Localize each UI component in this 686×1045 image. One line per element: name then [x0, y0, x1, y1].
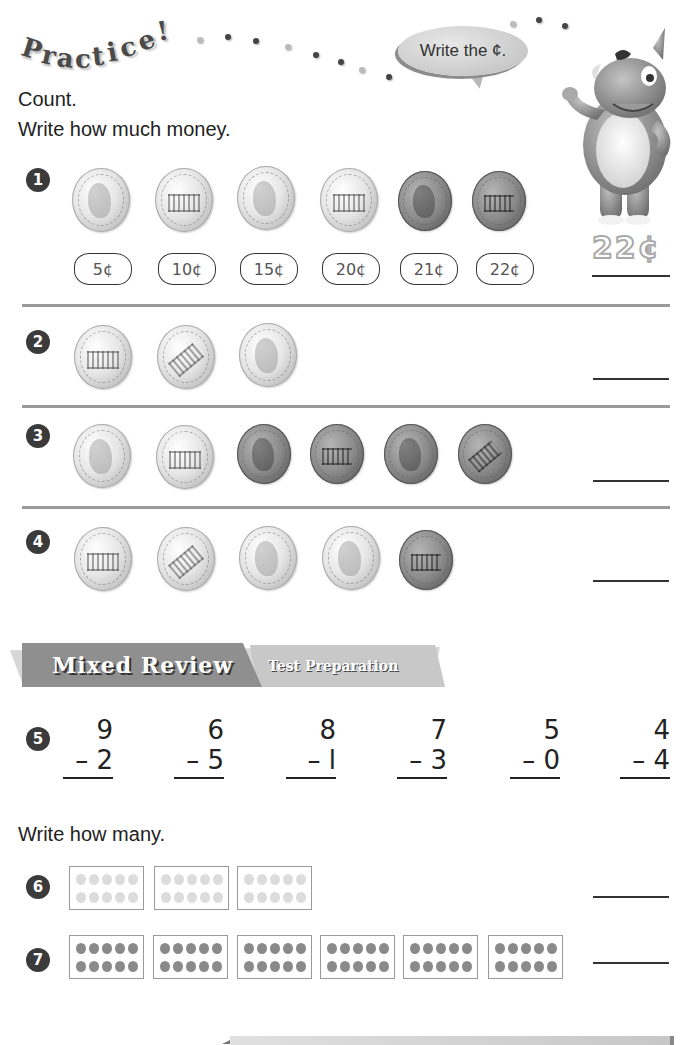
- ten-frame: [153, 935, 228, 979]
- trail-dot: [197, 37, 203, 43]
- section-divider: [22, 405, 670, 408]
- answer-blank[interactable]: [593, 480, 669, 482]
- answer-blank[interactable]: [593, 896, 669, 898]
- nickel-heads-icon: [73, 424, 131, 488]
- ten-frame: [403, 935, 478, 979]
- minuend: 4: [620, 715, 670, 745]
- ten-frame: [69, 935, 144, 979]
- mixed-review-banner: Test Preparation Mixed Review: [10, 643, 450, 687]
- exercise-number: 1: [26, 168, 50, 192]
- title-letter: t: [91, 41, 106, 72]
- bottom-page-bar: [230, 1036, 674, 1045]
- nickel-tails-icon: [157, 527, 215, 591]
- answer-blank[interactable]: [593, 962, 669, 964]
- subtraction-problem: 9 – 2: [63, 715, 113, 779]
- penny-heads-icon: [237, 424, 291, 484]
- section-divider: [22, 304, 670, 307]
- subtraction-problem: 5 – 0: [510, 715, 560, 779]
- ten-frame: [154, 866, 229, 910]
- mixed-review-label: Mixed Review: [22, 643, 262, 687]
- exercise-number: 2: [26, 330, 50, 354]
- minuend: 5: [510, 715, 560, 745]
- penny-tails-icon: [310, 424, 364, 484]
- trail-dot: [225, 34, 231, 40]
- practice-title: P r a c t i c e !: [22, 22, 242, 72]
- ten-frame: [69, 866, 144, 910]
- trail-dot: [285, 44, 291, 50]
- section-divider: [22, 506, 670, 509]
- trail-dot: [536, 17, 542, 23]
- nickel-tails-icon: [157, 325, 215, 389]
- ten-frame: [320, 935, 395, 979]
- trail-dot: [386, 74, 392, 80]
- title-letter: !: [155, 15, 170, 46]
- subtrahend: – 4: [620, 745, 670, 779]
- nickel-heads-icon: [239, 323, 297, 387]
- speech-bubble: Write the ¢.: [398, 26, 528, 76]
- trail-dot: [313, 52, 319, 58]
- nickel-heads-icon: [239, 526, 297, 590]
- title-letter: a: [55, 42, 75, 74]
- penny-tails-icon: [472, 171, 526, 231]
- running-total-cloud: 5¢: [74, 253, 132, 285]
- running-total-cloud: 10¢: [158, 253, 216, 285]
- exercise-number: 4: [26, 530, 50, 554]
- title-letter: c: [75, 44, 91, 74]
- exercise-number: 3: [26, 424, 50, 448]
- subtrahend: – l: [286, 745, 336, 779]
- ten-frame: [237, 866, 312, 910]
- nickel-heads-icon: [72, 168, 130, 232]
- subtraction-problem: 7 – 3: [397, 715, 447, 779]
- nickel-tails-icon: [156, 425, 214, 489]
- trail-dot: [359, 67, 365, 73]
- nickel-tails-icon: [74, 325, 132, 389]
- nickel-tails-icon: [320, 168, 378, 232]
- trail-dot: [510, 21, 516, 27]
- ten-frame: [488, 935, 563, 979]
- exercise-number: 7: [26, 948, 50, 972]
- running-total-cloud: 22¢: [476, 253, 534, 285]
- instruction-write-money: Write how much money.: [18, 118, 231, 141]
- minuend: 8: [286, 715, 336, 745]
- minuend: 6: [174, 715, 224, 745]
- answer-blank[interactable]: [593, 378, 669, 380]
- subtraction-problem: 4 – 4: [620, 715, 670, 779]
- subtraction-problem: 8 – l: [286, 715, 336, 779]
- trail-dot: [338, 59, 344, 65]
- subtraction-problem: 6 – 5: [174, 715, 224, 779]
- exercise-number: 5: [26, 727, 50, 751]
- running-total-cloud: 15¢: [240, 253, 298, 285]
- instruction-count: Count.: [18, 88, 77, 111]
- nickel-heads-icon: [322, 526, 380, 590]
- ten-frame: [237, 935, 312, 979]
- subtrahend: – 2: [63, 745, 113, 779]
- traced-answer: 22¢: [592, 230, 661, 265]
- penny-tails-icon: [458, 424, 512, 484]
- minuend: 9: [63, 715, 113, 745]
- instruction-write-how-many: Write how many.: [18, 823, 165, 846]
- answer-blank[interactable]: [593, 580, 669, 582]
- subtrahend: – 3: [397, 745, 447, 779]
- penny-heads-icon: [384, 424, 438, 484]
- penny-heads-icon: [398, 171, 452, 231]
- exercise-number: 6: [26, 875, 50, 899]
- nickel-heads-icon: [237, 166, 295, 230]
- minuend: 7: [397, 715, 447, 745]
- penny-tails-icon: [399, 530, 453, 590]
- nickel-tails-icon: [155, 168, 213, 232]
- running-total-cloud: 21¢: [400, 253, 458, 285]
- trail-dot: [253, 38, 259, 44]
- nickel-tails-icon: [74, 527, 132, 591]
- subtrahend: – 5: [174, 745, 224, 779]
- answer-line: [592, 275, 670, 277]
- rhino-mascot-icon: [545, 20, 680, 230]
- running-total-cloud: 20¢: [322, 253, 380, 285]
- speech-bubble-text: Write the ¢.: [420, 41, 507, 61]
- subtrahend: – 0: [510, 745, 560, 779]
- test-preparation-label: Test Preparation: [250, 645, 445, 687]
